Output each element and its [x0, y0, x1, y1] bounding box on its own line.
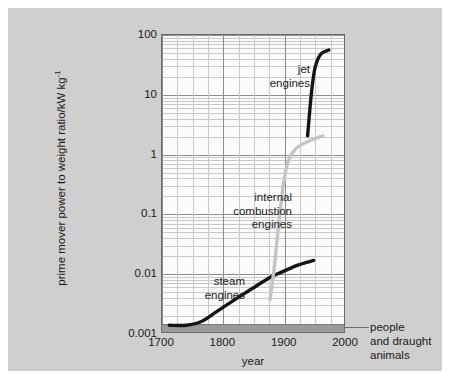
x-tick-label: 1700 [148, 337, 174, 349]
y-tick-label: 0.1 [141, 208, 157, 220]
x-tick-label: 2000 [332, 337, 358, 349]
animal-band-leader-line [345, 327, 369, 328]
figure-panel: 100 10 1 0.1 0.01 0.001 prime mover powe… [8, 8, 442, 371]
y-tick-label: 1 [151, 149, 157, 161]
figure-root: 100 10 1 0.1 0.01 0.001 prime mover powe… [0, 0, 450, 379]
x-tick-label: 1800 [210, 337, 236, 349]
y-tick-label: 0.01 [135, 268, 157, 280]
y-axis-title-text: prime mover power to weight ratio/kW kg [55, 77, 67, 285]
steam-engines-label: steam engines [183, 275, 245, 302]
y-axis-tick-labels: 100 10 1 0.1 0.01 0.001 [116, 8, 157, 379]
y-axis-title: prime mover power to weight ratio/kW kg-… [53, 58, 67, 298]
jet-engines-label: jet engines [244, 63, 310, 90]
y-tick-label: 10 [144, 89, 157, 101]
y-axis-title-exponent: -1 [53, 70, 62, 77]
y-tick-label: 100 [138, 29, 157, 41]
internal-combustion-label: internal combustion engines [194, 191, 292, 232]
x-axis-title: year [161, 355, 345, 367]
x-tick-label: 1900 [271, 337, 297, 349]
jet-engines-curve [308, 50, 329, 136]
animal-band-callout-label: people and draught animals [370, 321, 450, 362]
